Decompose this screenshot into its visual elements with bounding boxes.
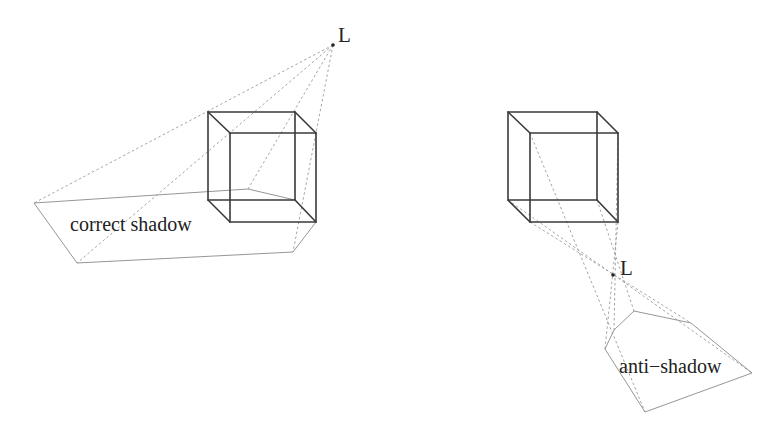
cube-edge: [508, 112, 530, 133]
shadow-edge: [34, 189, 295, 203]
ray-line: [34, 45, 333, 203]
right-cube: [508, 112, 618, 222]
cube-edge: [295, 200, 316, 222]
light-label: L: [620, 256, 633, 280]
cube-edge: [508, 200, 530, 222]
cube-edge: [597, 112, 618, 133]
ray-line: [605, 222, 618, 349]
anti-shadow-label: anti−shadow: [619, 355, 722, 377]
cube-edge: [597, 200, 618, 222]
light-source-point: [331, 43, 335, 47]
left-panel-correct-shadow: L correct shadow: [34, 23, 351, 263]
right-panel-anti-shadow: L anti−shadow: [508, 112, 752, 412]
light-label: L: [338, 23, 351, 47]
cube-edge: [208, 200, 230, 222]
left-cube: [208, 112, 316, 222]
shadow-diagram: L correct shadow L anti−shadow: [0, 0, 778, 430]
cube-edge: [208, 112, 230, 133]
ray-line: [248, 45, 333, 189]
correct-shadow-label: correct shadow: [70, 213, 192, 235]
ray-line: [508, 200, 752, 373]
ray-line: [530, 222, 691, 323]
cube-edge: [295, 112, 316, 133]
ray-line: [293, 45, 333, 252]
light-source-point: [611, 273, 615, 277]
